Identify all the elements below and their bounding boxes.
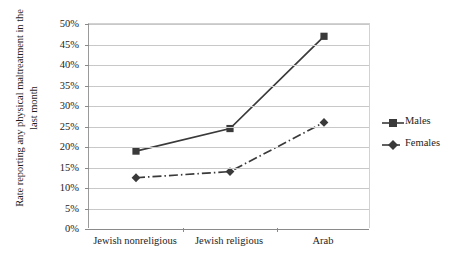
y-axis-tick-mark [85,106,89,107]
gridline [89,65,369,66]
legend-label-males: Males [404,115,431,127]
y-axis-tick-mark [85,209,89,210]
square-marker-icon [382,115,404,127]
gridline [89,106,369,107]
gridline [89,127,369,128]
data-point-marker [320,118,329,127]
y-axis-tick-mark [85,65,89,66]
y-axis-tick-mark [85,86,89,87]
data-point-marker [132,173,141,182]
y-axis-tick-mark [85,127,89,128]
series-line [136,36,324,151]
line-chart: Rate reporting any physical maltreatment… [0,0,467,273]
x-axis-tick-label: Arab [313,234,334,247]
x-axis-baseline [89,229,369,230]
y-axis-tick-mark [85,188,89,189]
y-axis-tick-labels: 0%5%10%15%20%25%30%35%40%45%50% [40,23,83,228]
legend-label-females: Females [404,137,440,149]
gridline [89,86,369,87]
x-axis-tick-mark [277,228,278,232]
x-axis-tick-mark [183,228,184,232]
gridline [89,188,369,189]
y-axis-tick-mark [85,24,89,25]
gridline [89,45,369,46]
diamond-marker-icon [382,137,404,149]
data-point-marker [132,148,139,155]
data-point-marker [320,33,327,40]
y-axis-tick-mark [85,168,89,169]
y-axis-tick-mark [85,147,89,148]
gridline [89,168,369,169]
y-axis-tick-label: 20% [36,141,79,152]
x-axis-tick-labels: Jewish nonreligiousJewish religiousArab [88,234,370,250]
legend-item-males: Males [382,110,467,132]
y-axis-tick-label: 45% [36,38,79,49]
y-axis-title-line-1: Rate reporting any physical maltreatment… [13,3,27,213]
gridline [89,24,369,25]
legend-item-females: Females [382,132,467,154]
y-axis-tick-label: 50% [36,18,79,29]
gridline [89,147,369,148]
y-axis-tick-label: 40% [36,59,79,70]
x-axis-tick-label: Jewish nonreligious [93,234,177,247]
chart-legend: Males Females [382,110,467,154]
y-axis-tick-label: 25% [36,120,79,131]
y-axis-tick-label: 30% [36,100,79,111]
y-axis-tick-label: 0% [36,223,79,234]
x-axis-tick-label: Jewish religious [195,234,263,247]
y-axis-tick-label: 10% [36,182,79,193]
y-axis-tick-label: 35% [36,79,79,90]
data-point-marker [226,167,235,176]
gridline [89,209,369,210]
y-axis-tick-label: 5% [36,202,79,213]
y-axis-tick-mark [85,229,89,230]
y-axis-tick-label: 15% [36,161,79,172]
y-axis-tick-mark [85,45,89,46]
plot-area [88,23,370,228]
